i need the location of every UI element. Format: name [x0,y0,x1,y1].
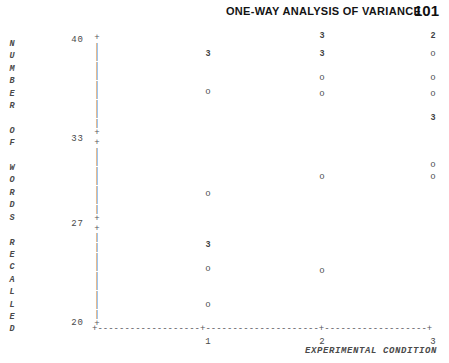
x-axis-line: +-------------------+-------------------… [92,325,442,335]
data-point-marker: o [202,300,214,309]
data-point-count-marker: 3 [202,241,214,250]
data-point-marker: o [427,160,439,169]
data-point-count-marker: 3 [202,50,214,59]
data-point-marker: o [427,74,439,83]
y-axis-tick-label: 40 [58,35,84,45]
data-point-marker: o [316,74,328,83]
scatter-plot: N U M B E R O F W O R D S R E C A L L E … [0,0,449,363]
data-point-count-marker: 3 [316,50,328,59]
data-point-marker: o [316,173,328,182]
y-axis-tick-label: 20 [58,318,84,328]
data-point-marker: o [316,89,328,98]
x-axis-title: EXPERIMENTAL CONDITION [305,346,437,356]
y-axis-tick-label: 33 [58,134,84,144]
data-point-marker: o [202,265,214,274]
y-axis-title: N U M B E R O F W O R D S R E C A L L E … [4,38,20,336]
data-point-count-marker: 2 [427,31,439,40]
data-point-marker: o [202,88,214,97]
data-point-count-marker: 3 [427,113,439,122]
data-point-marker: o [427,89,439,98]
scatterplot-page: ONE-WAY ANALYSIS OF VARIANCE 101 N U M B… [0,0,449,363]
x-axis-tick-label: 1 [201,337,215,347]
data-point-marker: o [427,50,439,59]
y-axis-tick-label: 27 [58,219,84,229]
data-point-marker: o [202,190,214,199]
y-axis-line: +|||||||||++|||||||++|||||||||+ [90,34,104,330]
data-point-count-marker: 3 [316,31,328,40]
data-point-marker: o [427,173,439,182]
data-point-marker: o [316,266,328,275]
